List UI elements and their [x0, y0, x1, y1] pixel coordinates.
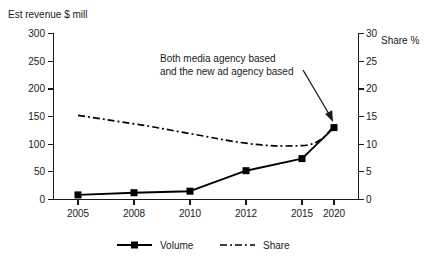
x-tick-label-2005: 2005 — [67, 208, 90, 219]
x-tick-label-2008: 2008 — [123, 208, 146, 219]
left-tick-label-150: 150 — [28, 111, 45, 122]
right-tick-label-0: 0 — [366, 194, 372, 205]
x-tick-label-2020: 2020 — [323, 208, 346, 219]
annotation-arrow-head — [325, 110, 333, 122]
x-tick-label-2010: 2010 — [179, 208, 202, 219]
right-tick-label-25: 25 — [366, 56, 378, 67]
chart-canvas: Est revenue $ mill Share % 300 250 200 1… — [0, 0, 434, 260]
legend-swatch-volume-marker — [131, 242, 138, 249]
left-axis-title: Est revenue $ mill — [8, 9, 87, 20]
volume-markers — [75, 124, 338, 198]
legend-label-volume: Volume — [160, 240, 194, 251]
right-axis-ticks: 30 25 20 15 10 5 0 — [359, 28, 378, 205]
left-tick-label-250: 250 — [28, 56, 45, 67]
legend-item-share[interactable]: Share — [220, 240, 290, 251]
right-tick-label-30: 30 — [366, 28, 378, 39]
volume-marker-2020 — [331, 124, 338, 131]
volume-marker-2015 — [299, 155, 306, 162]
right-tick-label-5: 5 — [366, 166, 372, 177]
annotation-arrow-line — [303, 70, 329, 114]
left-tick-label-100: 100 — [28, 139, 45, 150]
volume-marker-2008 — [131, 189, 138, 196]
left-axis-ticks: 300 250 200 150 100 50 0 — [28, 28, 53, 205]
chart-legend: Volume Share — [117, 240, 290, 251]
annotation-line-2: and the new ad agency based — [160, 66, 293, 77]
right-axis-title: Share % — [381, 35, 419, 46]
share-line — [78, 115, 334, 146]
right-tick-label-20: 20 — [366, 83, 378, 94]
volume-marker-2010 — [187, 188, 194, 195]
x-tick-label-2015: 2015 — [291, 208, 314, 219]
legend-label-share: Share — [263, 240, 290, 251]
x-tick-label-2012: 2012 — [235, 208, 258, 219]
left-tick-label-0: 0 — [39, 194, 45, 205]
right-tick-label-15: 15 — [366, 111, 378, 122]
volume-marker-2012 — [243, 167, 250, 174]
left-tick-label-50: 50 — [34, 166, 46, 177]
volume-line — [78, 128, 334, 195]
chart-annotation: Both media agency based and the new ad a… — [160, 53, 333, 122]
annotation-line-1: Both media agency based — [160, 53, 276, 64]
x-axis-ticks: 2005 2008 2010 2012 2015 2020 — [67, 200, 346, 220]
legend-item-volume[interactable]: Volume — [117, 240, 194, 251]
right-tick-label-10: 10 — [366, 139, 378, 150]
revenue-share-chart: Est revenue $ mill Share % 300 250 200 1… — [0, 0, 434, 260]
left-tick-label-300: 300 — [28, 28, 45, 39]
volume-marker-2005 — [75, 191, 82, 198]
left-tick-label-200: 200 — [28, 83, 45, 94]
